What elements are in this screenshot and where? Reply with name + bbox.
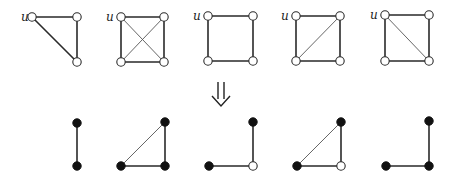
top-graph-1: u [21, 10, 81, 66]
bottom-graph-3 [205, 118, 257, 170]
filled-vertex-a [249, 118, 257, 126]
open-vertex-b [336, 57, 344, 65]
bottom-graph-1 [73, 119, 81, 170]
open-vertex-b [337, 162, 345, 170]
open-vertex-c [117, 58, 125, 66]
open-vertex-c [381, 57, 389, 65]
top-graph-5: u [370, 8, 433, 65]
open-vertex-u [117, 13, 125, 21]
open-vertex-b [73, 58, 81, 66]
open-vertex-a [336, 12, 344, 20]
edge-c-a [121, 122, 165, 166]
filled-vertex-c [382, 162, 390, 170]
open-vertex-u [292, 12, 300, 20]
filled-vertex-b [73, 162, 81, 170]
filled-vertex-c [117, 162, 125, 170]
vertex-label-u: u [21, 10, 29, 24]
open-vertex-a [425, 11, 433, 19]
open-vertex-b [425, 57, 433, 65]
double-down-arrow-icon [212, 82, 230, 106]
top-graph-4: u [281, 9, 344, 65]
filled-vertex-a [425, 117, 433, 125]
edge-c-a [296, 16, 340, 61]
filled-vertex-c [205, 162, 213, 170]
vertex-label-u: u [370, 8, 378, 22]
top-row-graphs: uuuuu [21, 8, 433, 66]
edge-u-b [32, 17, 77, 62]
open-vertex-u [381, 11, 389, 19]
vertex-label-u: u [193, 9, 201, 23]
bottom-graph-4 [293, 118, 345, 170]
open-vertex-u [28, 13, 36, 21]
top-graph-2: u [106, 10, 168, 66]
open-vertex-a [73, 13, 81, 21]
filled-vertex-c [293, 162, 301, 170]
bottom-row-graphs [73, 117, 433, 170]
open-vertex-c [204, 57, 212, 65]
filled-vertex-b [161, 162, 169, 170]
edge-c-a [297, 122, 341, 166]
open-vertex-b [249, 162, 257, 170]
open-vertex-b [249, 57, 257, 65]
implication-arrow [212, 82, 230, 106]
graph-diagram: uuuuu [0, 0, 454, 181]
open-vertex-b [160, 58, 168, 66]
open-vertex-a [249, 12, 257, 20]
filled-vertex-b [425, 162, 433, 170]
open-vertex-a [160, 13, 168, 21]
vertex-label-u: u [106, 10, 114, 24]
vertex-label-u: u [281, 9, 289, 23]
filled-vertex-a [161, 118, 169, 126]
bottom-graph-5 [382, 117, 433, 170]
filled-vertex-a [337, 118, 345, 126]
edge-u-b [385, 15, 429, 61]
top-graph-3: u [193, 9, 257, 65]
open-vertex-u [204, 12, 212, 20]
open-vertex-c [292, 57, 300, 65]
filled-vertex-a [73, 119, 81, 127]
bottom-graph-2 [117, 118, 169, 170]
